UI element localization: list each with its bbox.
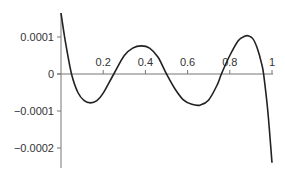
y-tick-label: 0 xyxy=(48,68,54,80)
x-tick-label: 0.2 xyxy=(96,56,111,68)
y-tick-label: −0.0002 xyxy=(14,142,54,154)
x-tick-label: 0.6 xyxy=(180,56,195,68)
y-tick-label: 0.0001 xyxy=(20,31,54,43)
x-tick-label: 1 xyxy=(269,56,275,68)
line-chart: 0.00010−0.0001−0.0002 0.20.40.60.81 xyxy=(0,0,285,174)
data-series-line xyxy=(61,13,272,163)
y-axis: 0.00010−0.0001−0.0002 xyxy=(14,13,61,168)
y-tick-label: −0.0001 xyxy=(14,105,54,117)
x-tick-label: 0.4 xyxy=(138,56,153,68)
x-axis: 0.20.40.60.81 xyxy=(57,56,275,74)
